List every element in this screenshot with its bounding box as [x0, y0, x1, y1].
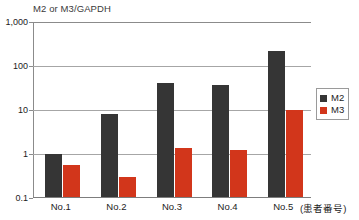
bar-m3-no4[interactable] — [230, 150, 247, 197]
chart-axis-title: M2 or M3/GAPDH — [33, 3, 111, 14]
bar-group — [157, 22, 192, 197]
bar-m3-no2[interactable] — [119, 177, 136, 197]
bar-m3-no5[interactable] — [286, 110, 303, 197]
x-axis-tick-label: No.3 — [144, 201, 200, 212]
plot-area — [33, 22, 311, 198]
y-axis-tick-mark — [29, 154, 33, 155]
x-axis-tick-label: No.4 — [200, 201, 256, 212]
y-axis-tick-label: 1,000 — [0, 17, 28, 27]
y-axis-tick-label: 100 — [0, 61, 28, 71]
legend-label-m3: M3 — [331, 104, 344, 116]
x-axis-tick-label: No.2 — [89, 201, 145, 212]
x-axis-unit-note: (患者番号) — [300, 201, 346, 215]
legend-swatch-m2-icon — [320, 95, 327, 102]
legend-item-m3[interactable]: M3 — [320, 104, 344, 116]
y-axis-tick-label: 10 — [0, 105, 28, 115]
chart-container: M2 or M3/GAPDH 1,0001001010.1 No.1No.2No… — [0, 0, 359, 220]
bar-m2-no1[interactable] — [45, 154, 62, 197]
bar-m3-no3[interactable] — [175, 148, 192, 197]
bars-layer — [33, 22, 311, 198]
legend-swatch-m3-icon — [320, 107, 327, 114]
chart-legend: M2 M3 — [316, 88, 349, 120]
y-axis-tick-mark — [29, 66, 33, 67]
y-axis-tick-label: 1 — [0, 149, 28, 159]
y-axis-tick-mark — [29, 198, 33, 199]
y-axis-tick-mark — [29, 110, 33, 111]
legend-label-m2: M2 — [331, 92, 344, 104]
bar-group — [45, 22, 80, 197]
bar-m2-no4[interactable] — [212, 85, 229, 198]
bar-m2-no3[interactable] — [157, 83, 174, 197]
bar-group — [212, 22, 247, 197]
legend-item-m2[interactable]: M2 — [320, 92, 344, 104]
bar-group — [101, 22, 136, 197]
bar-group — [268, 22, 303, 197]
x-axis-tick-label: No.1 — [33, 201, 89, 212]
y-axis-tick-label: 0.1 — [0, 193, 28, 203]
y-axis-tick-mark — [29, 22, 33, 23]
bar-m2-no5[interactable] — [268, 51, 285, 197]
bar-m2-no2[interactable] — [101, 114, 118, 197]
bar-m3-no1[interactable] — [63, 165, 80, 197]
